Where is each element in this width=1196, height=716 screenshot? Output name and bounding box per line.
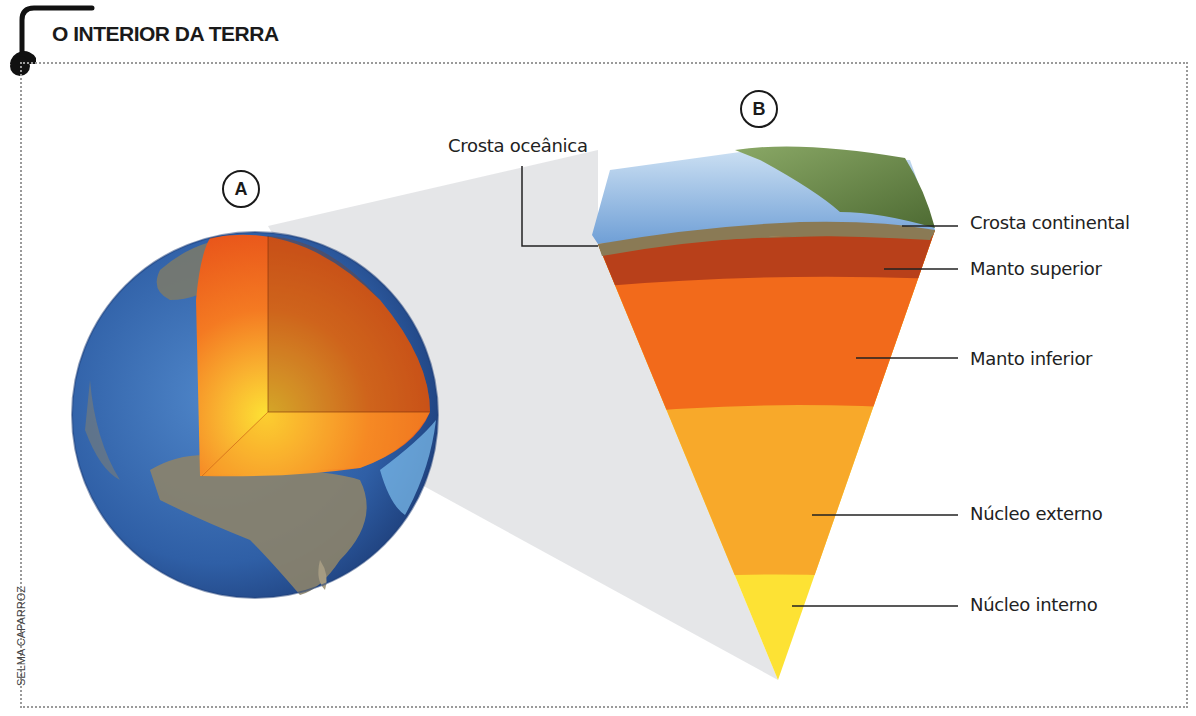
label-crosta-oceanica: Crosta oceânica — [448, 135, 588, 156]
figure-b-badge: B — [740, 90, 778, 128]
label-manto-inferior: Manto inferior — [970, 348, 1092, 369]
label-crosta-continental: Crosta continental — [970, 212, 1130, 233]
page-title: O INTERIOR DA TERRA — [52, 22, 279, 46]
figure-a-badge: A — [222, 170, 260, 208]
label-nucleo-interno: Núcleo interno — [970, 594, 1097, 615]
label-manto-superior: Manto superior — [970, 258, 1102, 279]
image-credit: SELMA CAPARROZ — [15, 581, 27, 691]
label-nucleo-externo: Núcleo externo — [970, 503, 1102, 524]
